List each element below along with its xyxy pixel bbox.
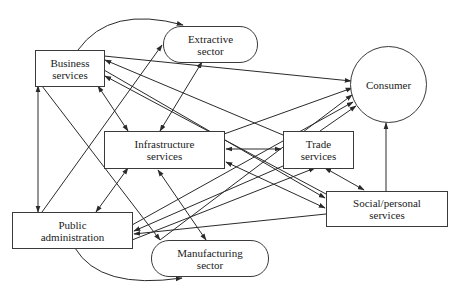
node-label: Infrastructure services xyxy=(135,138,195,162)
infrastructure-services-node: Infrastructure services xyxy=(104,131,225,169)
node-label: Consumer xyxy=(366,79,411,91)
node-label: Public administration xyxy=(41,219,105,243)
node-label: Manufacturing sector xyxy=(177,247,242,271)
social-personal-services-node: Social/personal services xyxy=(326,191,448,227)
business-services-node: Business services xyxy=(35,50,105,87)
node-label: Trade services xyxy=(301,138,336,162)
manufacturing-sector-node: Manufacturing sector xyxy=(151,240,269,277)
trade-services-node: Trade services xyxy=(283,131,354,169)
node-label: Business services xyxy=(50,57,89,81)
consumer-node: Consumer xyxy=(350,46,427,123)
public-administration-node: Public administration xyxy=(12,212,133,249)
node-label: Social/personal services xyxy=(353,197,421,221)
extractive-sector-node: Extractive sector xyxy=(163,26,258,63)
node-label: Extractive sector xyxy=(188,33,233,57)
